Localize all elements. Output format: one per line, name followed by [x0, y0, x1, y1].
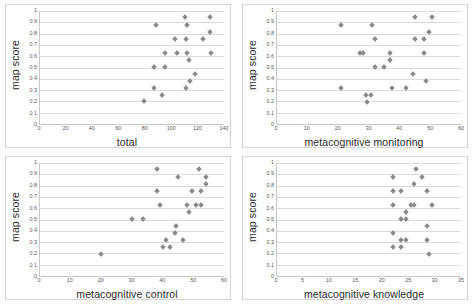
data-point — [398, 244, 404, 250]
x-tick-label: 140 — [220, 126, 229, 131]
y-tick-label: 0.6 — [267, 54, 275, 59]
x-tick-label: 60 — [458, 126, 464, 131]
gridline — [40, 197, 224, 198]
x-axis-label-metacognitive-knowledge: metacognitive knowledge — [263, 288, 465, 300]
data-area-metacognitive-knowledge — [276, 163, 461, 277]
y-axis-ticks-metacognitive-control: 00.10.20.30.40.50.60.70.80.91 — [21, 163, 38, 277]
data-point — [388, 57, 394, 63]
gridline — [277, 174, 461, 175]
x-tick-label: 20 — [62, 126, 68, 131]
data-point — [372, 36, 378, 42]
y-axis-ticks-total: 00.10.20.30.40.50.60.70.80.91 — [21, 11, 38, 125]
gridline — [40, 90, 224, 91]
gridline — [277, 22, 461, 23]
data-point — [403, 209, 409, 215]
data-point — [207, 14, 213, 20]
x-tick-label: 40 — [396, 126, 402, 131]
x-tick-label: 50 — [190, 278, 196, 283]
data-point — [412, 36, 418, 42]
y-tick-label: 0.3 — [267, 240, 275, 245]
gridline — [277, 197, 461, 198]
data-point — [160, 244, 166, 250]
x-axis-ticks-total: 020406080100120140 — [39, 126, 224, 135]
y-tick-label: 0.9 — [30, 172, 38, 177]
gridline — [40, 22, 224, 23]
x-tick-label: 100 — [167, 126, 176, 131]
x-axis-label-metacognitive-control: metacognitive control — [26, 288, 228, 300]
gridline — [40, 11, 224, 12]
y-tick-label: 0.3 — [30, 88, 38, 93]
gridline — [40, 79, 224, 80]
gridline — [277, 265, 461, 266]
gridline — [40, 186, 224, 187]
y-tick-label: 0.4 — [30, 77, 38, 82]
gridline — [277, 163, 461, 164]
chart-panel-metacognitive-monitoring: map score 00.10.20.30.40.50.60.70.80.91 … — [242, 4, 468, 148]
gridline — [40, 56, 224, 57]
data-point — [140, 216, 146, 222]
data-point — [186, 57, 192, 63]
data-point — [398, 188, 404, 194]
data-point — [174, 223, 180, 229]
data-point — [368, 92, 374, 98]
data-point — [183, 36, 189, 42]
gridline — [277, 186, 461, 187]
data-point — [159, 92, 165, 98]
y-tick-label: 0.3 — [267, 88, 275, 93]
y-tick-label: 1 — [34, 8, 37, 13]
y-tick-label: 0.1 — [267, 263, 275, 268]
y-tick-label: 0.9 — [30, 20, 38, 25]
x-tick-label: 40 — [89, 126, 95, 131]
data-point — [182, 14, 188, 20]
data-point — [151, 64, 157, 70]
data-point — [192, 71, 198, 77]
gridline — [277, 56, 461, 57]
y-tick-label: 0.6 — [30, 206, 38, 211]
gridline — [40, 113, 224, 114]
data-point — [186, 209, 192, 215]
x-tick-label: 10 — [304, 126, 310, 131]
data-point — [429, 14, 435, 20]
y-tick-label: 0.6 — [267, 206, 275, 211]
gridline — [40, 265, 224, 266]
gridline — [277, 11, 461, 12]
gridline — [277, 45, 461, 46]
data-point — [167, 244, 173, 250]
gridline — [40, 101, 224, 102]
x-tick-label: 10 — [67, 278, 73, 283]
y-tick-label: 0.7 — [267, 42, 275, 47]
x-tick-label: 30 — [432, 278, 438, 283]
gridline — [277, 208, 461, 209]
y-tick-label: 0.1 — [30, 111, 38, 116]
x-tick-label: 35 — [458, 278, 464, 283]
y-axis-ticks-metacognitive-monitoring: 00.10.20.30.40.50.60.70.80.91 — [258, 11, 275, 125]
gridline — [277, 220, 461, 221]
x-tick-label: 0 — [38, 126, 41, 131]
x-tick-label: 0 — [275, 278, 278, 283]
gridline — [277, 90, 461, 91]
y-tick-label: 0.4 — [30, 229, 38, 234]
gridline — [277, 242, 461, 243]
data-point — [189, 188, 195, 194]
y-axis-label-metacognitive-control: map score — [7, 157, 22, 277]
y-tick-label: 0.8 — [267, 183, 275, 188]
data-point — [129, 216, 135, 222]
data-point — [197, 166, 203, 172]
x-tick-label: 30 — [129, 278, 135, 283]
data-area-metacognitive-monitoring — [276, 11, 461, 125]
y-tick-label: 0.9 — [267, 20, 275, 25]
chart-panel-metacognitive-knowledge: map score 00.10.20.30.40.50.60.70.80.91 … — [242, 156, 468, 300]
y-axis-ticks-metacognitive-knowledge: 00.10.20.30.40.50.60.70.80.91 — [258, 163, 275, 277]
x-tick-label: 20 — [379, 278, 385, 283]
data-point — [424, 188, 430, 194]
x-tick-label: 20 — [335, 126, 341, 131]
data-point — [154, 188, 160, 194]
x-axis-ticks-metacognitive-knowledge: 05101520253035 — [276, 278, 461, 287]
x-axis-label-total: total — [26, 136, 228, 148]
data-point — [413, 166, 419, 172]
data-point — [198, 188, 204, 194]
gridline — [277, 79, 461, 80]
x-tick-label: 15 — [352, 278, 358, 283]
data-point — [141, 99, 147, 105]
data-point — [200, 36, 206, 42]
